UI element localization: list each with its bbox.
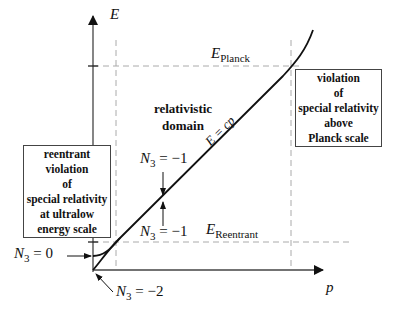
lower-box-line: reentrant [24,147,110,162]
x-axis-label: p [326,279,334,296]
reentrant-level-label: EReentrant [206,221,258,238]
upper-box-line: violation [296,71,381,86]
planck-violation-box: violation of special relativity above Pl… [295,69,382,147]
n3-value: = −2 [132,283,164,299]
upper-box-line: of [296,86,381,101]
relativistic-domain-label: relativistic domain [148,100,218,134]
y-axis-label: E [110,6,119,23]
n3-upper-label: N3 = −1 [140,150,187,167]
domain-line-2: domain [148,117,218,134]
domain-line-1: relativistic [148,100,218,117]
planck-subscript: Planck [220,52,250,64]
lower-box-line: violation [24,162,110,177]
n3-sub: 3 [150,230,156,242]
n3-sub: 3 [150,157,156,169]
n3-minus2-label: N3 = −2 [116,283,163,300]
n3-sub: 3 [24,252,30,264]
upper-box-line: special relativity [296,101,381,116]
n3-value: = −1 [156,223,188,239]
n3-zero-label: N3 = 0 [14,245,53,262]
arrow-n3-minus2 [96,274,113,292]
n3-symbol: N [116,283,126,299]
n3-symbol: N [14,245,24,261]
n3-value: = −1 [156,150,188,166]
reentrant-violation-box: reentrant violation of special relativit… [23,145,111,238]
reentrant-symbol: E [206,221,215,237]
n3-symbol: N [140,150,150,166]
lower-box-line: special relativity [24,192,110,207]
lower-box-line: at ultralow [24,207,110,222]
n3-sub: 3 [126,290,132,302]
n3-symbol: N [140,223,150,239]
n3-lower-label: N3 = −1 [140,223,187,240]
upper-box-line: Planck scale [296,131,381,146]
planck-symbol: E [211,45,220,61]
lower-box-line: of [24,177,110,192]
upper-box-line: above [296,116,381,131]
lower-box-line: energy scale [24,222,110,237]
n3-value: = 0 [30,245,53,261]
reentrant-subscript: Reentrant [215,228,258,240]
planck-level-label: EPlanck [211,45,250,62]
